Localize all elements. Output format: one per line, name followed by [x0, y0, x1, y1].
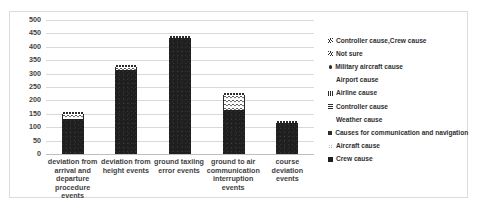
y-tick-label: 500 [29, 16, 41, 23]
legend-swatch-icon [328, 91, 333, 96]
y-tick-label: 0 [37, 150, 41, 157]
y-tick-label: 100 [29, 124, 41, 131]
legend-item[interactable]: Airline cause [328, 87, 466, 100]
x-axis-category-label: deviation from height events [99, 158, 152, 198]
legend-item[interactable]: Not sure [328, 47, 466, 60]
legend-item[interactable]: Airport cause [328, 74, 466, 87]
x-axis-category-labels: deviation from arrival and departure pro… [46, 158, 314, 198]
legend-label: Controller cause [336, 103, 388, 111]
y-tick-label: 350 [29, 57, 41, 64]
bar-slot[interactable] [46, 20, 100, 154]
legend-item[interactable]: Causes for communication and navigation [328, 126, 466, 139]
x-axis-category-label: course deviation events [261, 158, 314, 198]
legend-item[interactable]: Military aircraft cause [328, 60, 466, 73]
stacked-bar[interactable] [62, 112, 84, 154]
bar-slot[interactable] [207, 20, 261, 154]
y-tick-label: 250 [29, 83, 41, 90]
stacked-bar[interactable] [169, 36, 191, 154]
bar-segment-dark [62, 119, 84, 154]
legend-label: Airline cause [336, 89, 377, 97]
x-axis-category-label: ground to air communication interruption… [206, 158, 261, 198]
y-tick-label: 400 [29, 43, 41, 50]
bar-segment-dark [223, 110, 245, 154]
stacked-bar[interactable] [223, 93, 245, 154]
bar-segment-dark [115, 70, 137, 154]
stacked-bar[interactable] [276, 121, 298, 154]
legend-swatch-icon [328, 38, 333, 43]
legend-swatch-icon [329, 65, 332, 68]
bar-series-group [46, 20, 314, 154]
plot-area: 500450400350300250200150100500 [46, 20, 314, 154]
legend-item[interactable]: Crew cause [328, 153, 466, 166]
y-tick-label: 200 [29, 97, 41, 104]
y-tick-label: 150 [29, 110, 41, 117]
legend-swatch-icon [328, 78, 333, 83]
legend-swatch-icon [328, 104, 333, 109]
legend-label: Controller cause,Crew cause [336, 37, 427, 45]
legend-swatch-icon [328, 144, 333, 149]
bar-slot[interactable] [260, 20, 314, 154]
legend-label: Military aircraft cause [335, 63, 403, 71]
bar-segment-dark [276, 123, 298, 154]
legend-label: Crew cause [336, 155, 373, 163]
bar-slot[interactable] [153, 20, 207, 154]
legend-label: Airport cause [336, 76, 379, 84]
legend-item[interactable]: Controller cause [328, 100, 466, 113]
chart-figure: 500450400350300250200150100500 deviation… [9, 11, 468, 198]
x-axis-category-label: ground taxiing error events [152, 158, 205, 198]
bar-segment-light [223, 95, 245, 110]
legend-label: Causes for communication and navigation [335, 129, 468, 137]
bar-segment-dark [169, 38, 191, 154]
legend-swatch-icon [328, 131, 332, 135]
bar-slot[interactable] [100, 20, 154, 154]
y-tick-label: 300 [29, 70, 41, 77]
legend-item[interactable]: Weather cause [328, 113, 466, 126]
stacked-bar[interactable] [115, 65, 137, 154]
x-axis-category-label: deviation from arrival and departure pro… [46, 158, 99, 198]
legend-item[interactable]: Aircraft cause [328, 140, 466, 153]
legend-label: Aircraft cause [336, 142, 380, 150]
legend-item[interactable]: Controller cause,Crew cause [328, 34, 466, 47]
gridline [46, 154, 314, 155]
legend-swatch-icon [328, 157, 333, 162]
legend-swatch-icon [328, 51, 333, 56]
legend-label: Weather cause [336, 116, 382, 124]
y-tick-label: 50 [33, 137, 41, 144]
legend-label: Not sure [336, 50, 363, 58]
legend-swatch-icon [328, 117, 333, 122]
chart-legend: Controller cause,Crew causeNot sureMilit… [328, 34, 466, 166]
y-tick-label: 450 [29, 30, 41, 37]
